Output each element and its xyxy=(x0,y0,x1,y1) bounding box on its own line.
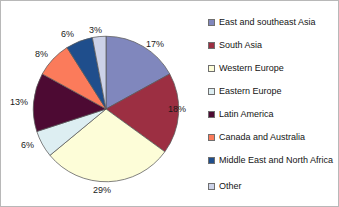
legend-swatch-icon xyxy=(208,111,215,118)
chart-legend: East and southeast AsiaSouth AsiaWestern… xyxy=(208,9,338,204)
legend-swatch-icon xyxy=(208,183,215,190)
pie-data-label: 3% xyxy=(89,25,102,35)
legend-item[interactable]: Latin America xyxy=(208,109,336,120)
legend-swatch-icon xyxy=(208,88,215,95)
legend-item-label: Eastern Europe xyxy=(219,86,282,97)
legend-swatch-icon xyxy=(208,42,215,49)
pie-data-label: 18% xyxy=(168,104,186,114)
pie-data-label: 13% xyxy=(10,97,28,107)
legend-item-label: South Asia xyxy=(219,40,262,51)
pie-data-label: 6% xyxy=(21,140,34,150)
pie-chart-svg xyxy=(31,34,181,184)
legend-item[interactable]: Eastern Europe xyxy=(208,86,336,97)
legend-item[interactable]: Other xyxy=(208,181,336,192)
legend-item[interactable]: South Asia xyxy=(208,40,336,51)
legend-item[interactable]: Western Europe xyxy=(208,63,336,74)
legend-swatch-icon xyxy=(208,134,215,141)
pie-chart-figure: 17%18%29%6%13%8%6%3% East and southeast … xyxy=(0,0,339,207)
legend-item-label: Middle East and North Africa xyxy=(219,155,333,166)
legend-item-label: Latin America xyxy=(219,109,274,120)
pie-data-label: 8% xyxy=(35,49,48,59)
pie-data-label: 17% xyxy=(146,39,164,49)
legend-item-label: Western Europe xyxy=(219,63,284,74)
legend-swatch-icon xyxy=(208,65,215,72)
pie-slice-group xyxy=(33,36,178,181)
legend-item-label: Canada and Australia xyxy=(219,132,305,143)
legend-item-label: Other xyxy=(219,181,242,192)
legend-item[interactable]: East and southeast Asia xyxy=(208,17,336,28)
pie-chart-plot-area: 17%18%29%6%13%8%6%3% xyxy=(1,1,206,207)
pie-data-label: 6% xyxy=(61,29,74,39)
legend-item-label: East and southeast Asia xyxy=(219,17,316,28)
legend-swatch-icon xyxy=(208,157,215,164)
legend-item[interactable]: Middle East and North Africa xyxy=(208,155,336,166)
pie-data-label: 29% xyxy=(93,185,111,195)
legend-swatch-icon xyxy=(208,19,215,26)
legend-item[interactable]: Canada and Australia xyxy=(208,132,336,143)
